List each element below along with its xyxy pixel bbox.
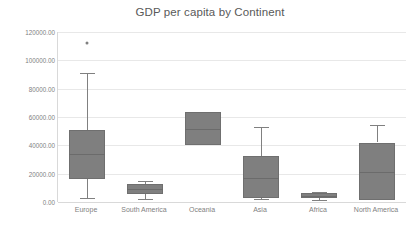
x-axis-tick-label: Asia bbox=[253, 206, 267, 213]
chart-container: GDP per capita by Continent 120000.00100… bbox=[0, 0, 420, 245]
upper-whisker-cap bbox=[370, 125, 385, 126]
median-line bbox=[127, 189, 163, 190]
box-plot-group[interactable] bbox=[348, 32, 406, 202]
median-line bbox=[185, 129, 221, 130]
y-axis-tick-label: 0.00 bbox=[3, 199, 55, 206]
box-plot-group[interactable] bbox=[116, 32, 174, 202]
box-rect[interactable] bbox=[243, 156, 279, 198]
y-axis-tick-label: 80000.00 bbox=[3, 85, 55, 92]
plot-area bbox=[57, 32, 405, 202]
lower-whisker-cap bbox=[312, 200, 327, 201]
upper-whisker-line bbox=[87, 73, 88, 130]
y-axis-tick-label: 40000.00 bbox=[3, 142, 55, 149]
x-axis-tick-label: Europe bbox=[75, 206, 98, 213]
box-plot-group[interactable] bbox=[174, 32, 232, 202]
lower-whisker-cap bbox=[80, 198, 95, 199]
y-axis-tick-label: 120000.00 bbox=[3, 29, 55, 36]
upper-whisker-cap bbox=[254, 127, 269, 128]
median-line bbox=[359, 172, 395, 173]
x-axis-tick-label: South America bbox=[121, 206, 167, 213]
x-axis-line bbox=[58, 202, 406, 203]
y-axis-tick-label: 60000.00 bbox=[3, 114, 55, 121]
box-plot-group[interactable] bbox=[232, 32, 290, 202]
upper-whisker-line bbox=[261, 127, 262, 156]
upper-whisker-cap bbox=[80, 73, 95, 74]
lower-whisker-line bbox=[87, 179, 88, 198]
box-plot-group[interactable] bbox=[290, 32, 348, 202]
upper-whisker-line bbox=[377, 125, 378, 143]
x-axis-tick-label: Oceania bbox=[189, 206, 215, 213]
y-axis-tick-label: 100000.00 bbox=[3, 57, 55, 64]
lower-whisker-cap bbox=[138, 199, 153, 200]
upper-whisker-cap bbox=[138, 181, 153, 182]
x-axis-tick-label: Africa bbox=[309, 206, 327, 213]
y-axis-tick-label: 20000.00 bbox=[3, 170, 55, 177]
chart-title: GDP per capita by Continent bbox=[0, 6, 420, 18]
lower-whisker-cap bbox=[254, 199, 269, 200]
x-axis-tick-label: North America bbox=[354, 206, 398, 213]
median-line bbox=[69, 154, 105, 155]
y-axis-tick-labels: 120000.00100000.0080000.0060000.0040000.… bbox=[0, 32, 55, 202]
outlier-point[interactable] bbox=[86, 42, 89, 45]
median-line bbox=[301, 196, 337, 197]
median-line bbox=[243, 178, 279, 179]
box-plot-group[interactable] bbox=[58, 32, 116, 202]
